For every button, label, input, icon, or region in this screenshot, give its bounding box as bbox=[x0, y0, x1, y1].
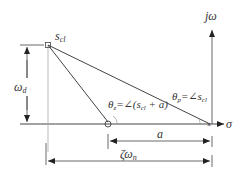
a-label: a bbox=[157, 127, 163, 141]
theta-z-label: θz=∠(scl + a) bbox=[108, 98, 168, 112]
real-axis-label: σ bbox=[226, 117, 233, 131]
pole-vector-line bbox=[48, 45, 210, 124]
zeta-omega-label: ζωn bbox=[120, 147, 137, 162]
origin-pole-marker: × bbox=[207, 121, 211, 128]
theta-p-arc bbox=[199, 119, 200, 124]
zero-vector-line bbox=[48, 45, 108, 122]
theta-p-label: θp=∠scl bbox=[172, 90, 207, 104]
closed-loop-pole-label: scl bbox=[55, 29, 66, 44]
imaginary-axis-label: jω bbox=[203, 9, 217, 23]
theta-z-arc bbox=[113, 116, 117, 124]
s-plane-diagram: jω σ scl × θz=∠(scl + a) θp=∠scl ωd a ζω… bbox=[0, 0, 248, 177]
